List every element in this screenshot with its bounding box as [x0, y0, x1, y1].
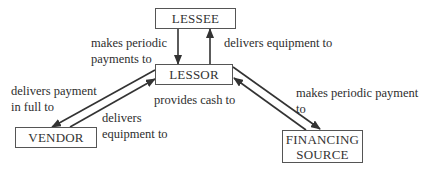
- label-lessor-to-vendor: delivers payment in full to: [11, 83, 97, 115]
- label-lessor-to-lessee: delivers equipment to: [224, 35, 332, 51]
- node-financing-source: FINANCING SOURCE: [282, 130, 363, 163]
- node-financing-label-line1: FINANCING: [286, 132, 359, 147]
- node-financing-label-line2: SOURCE: [296, 147, 349, 162]
- node-lessor: LESSOR: [155, 64, 233, 85]
- label-line: in full to: [11, 99, 97, 115]
- label-line: delivers equipment to: [224, 35, 332, 51]
- node-lessee: LESSEE: [155, 8, 236, 29]
- label-line: payments to: [91, 51, 167, 67]
- node-vendor-label: VENDOR: [28, 130, 83, 145]
- label-financing-to-lessor: provides cash to: [154, 92, 235, 108]
- node-lessor-label: LESSOR: [169, 67, 219, 82]
- label-line: makes periodic: [91, 35, 167, 51]
- label-line: delivers payment: [11, 83, 97, 99]
- label-line: equipment to: [102, 126, 168, 142]
- node-lessee-label: LESSEE: [172, 11, 219, 26]
- label-line: delivers: [102, 110, 168, 126]
- label-lessee-to-lessor: makes periodic payments to: [91, 35, 167, 67]
- label-line: makes periodic payment: [296, 85, 418, 101]
- label-line: provides cash to: [154, 92, 235, 108]
- label-line: to: [296, 101, 418, 117]
- label-lessor-to-financing: makes periodic payment to: [296, 85, 418, 117]
- label-vendor-to-lessor: delivers equipment to: [102, 110, 168, 142]
- node-vendor: VENDOR: [15, 127, 97, 148]
